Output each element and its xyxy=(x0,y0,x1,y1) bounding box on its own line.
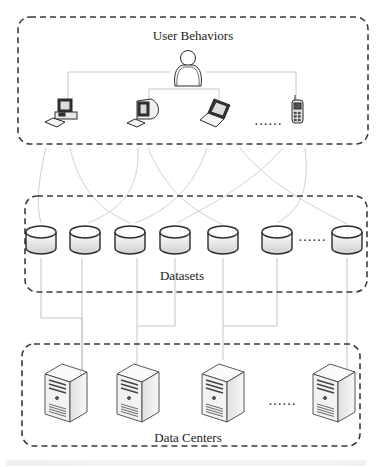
user-icon xyxy=(175,51,202,87)
crt-monitor-icon xyxy=(127,99,159,127)
database-icon xyxy=(332,226,362,254)
server-tower-icon xyxy=(117,364,159,422)
architecture-diagram: User Behaviors Datasets Data Centers …… … xyxy=(0,0,383,467)
database-icon xyxy=(208,226,238,254)
server-tower-icon xyxy=(45,364,87,422)
layer-label-user-behaviors: User Behaviors xyxy=(153,28,234,44)
cropped-caption-strip xyxy=(6,460,366,466)
desktop-tower-icon xyxy=(45,99,77,127)
server-tower-icon xyxy=(202,364,244,422)
device-dataset-connectors xyxy=(38,148,347,225)
layer-label-datasets: Datasets xyxy=(160,268,204,284)
layer-label-data-centers: Data Centers xyxy=(154,430,222,446)
server-ellipsis: …… xyxy=(268,396,296,406)
laptop-icon xyxy=(200,99,230,127)
dataset-ellipsis: …… xyxy=(298,232,326,242)
device-ellipsis: …… xyxy=(254,116,282,126)
database-icon xyxy=(26,226,56,254)
mobile-phone-icon xyxy=(292,95,303,123)
database-icon xyxy=(70,226,100,254)
database-icon xyxy=(262,226,292,254)
server-icons xyxy=(45,364,355,422)
database-icon xyxy=(115,226,145,254)
database-icon xyxy=(160,226,190,254)
server-tower-icon xyxy=(313,364,355,422)
